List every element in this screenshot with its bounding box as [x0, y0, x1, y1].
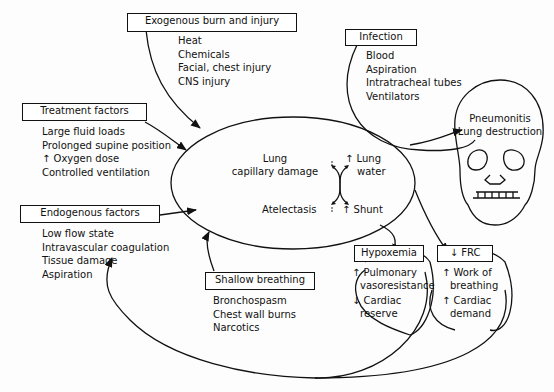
atelectasis: Atelectasis: [262, 203, 316, 216]
endogenous-title: Endogenous factors: [40, 207, 139, 218]
list-item: Bronchospasm: [213, 294, 296, 308]
list-item: ↑ Pulmonary: [352, 267, 435, 280]
list-item: demand: [442, 308, 498, 321]
list-item: Heat: [178, 34, 271, 48]
infection-title: Infection: [359, 31, 403, 42]
list-item: Controlled ventilation: [42, 166, 171, 180]
list-item: Intratracheal tubes: [366, 76, 462, 90]
list-item: Large fluid loads: [42, 125, 171, 139]
skull-label: Pneumonitis Lung destruction: [455, 112, 545, 138]
list-item: Aspiration: [42, 268, 169, 282]
shallow-breathing-list: Bronchospasm Chest wall burns Narcotics: [213, 294, 296, 335]
skull-icon: [455, 80, 543, 225]
endogenous-list: Low flow state Intravascular coagulation…: [42, 227, 169, 281]
list-item: vasoresistance: [352, 280, 435, 293]
lung-water: ↑ Lung water: [345, 152, 386, 178]
shallow-breathing-header: Shallow breathing: [205, 272, 315, 290]
shallow-breathing-title: Shallow breathing: [215, 274, 305, 285]
infection-list: Blood Aspiration Intratracheal tubes Ven…: [366, 49, 462, 103]
list-item: Tissue damage: [42, 254, 169, 268]
list-item: reserve: [352, 308, 435, 321]
infection-header: Infection: [345, 29, 417, 46]
treatment-header: Treatment factors: [22, 103, 147, 121]
frc-list: ↑ Work of breathing ↑ Cardiac demand: [442, 267, 498, 320]
list-item: Aspiration: [366, 63, 462, 77]
list-item: breathing: [442, 280, 498, 293]
frc-header: ↓ FRC: [437, 245, 493, 262]
shunt: ↑ Shunt: [342, 203, 383, 216]
list-item: ↓ Cardiac: [352, 295, 435, 308]
exogenous-list: Heat Chemicals Facial, chest injury CNS …: [178, 34, 271, 88]
list-item: ↑ Cardiac: [442, 295, 498, 308]
exogenous-header: Exogenous burn and injury: [127, 13, 297, 32]
list-item: Chest wall burns: [213, 308, 296, 322]
list-item: Intravascular coagulation: [42, 241, 169, 255]
treatment-list: Large fluid loads Prolonged supine posit…: [42, 125, 171, 179]
hypoxemia-title: Hypoxemia: [361, 247, 417, 258]
list-item: ↑ Oxygen dose: [42, 152, 171, 166]
list-item: ↑ Work of: [442, 267, 498, 280]
treatment-title: Treatment factors: [40, 105, 129, 116]
lung-capillary-damage: Lung capillary damage: [225, 152, 325, 178]
hypoxemia-list: ↑ Pulmonary vasoresistance ↓ Cardiac res…: [352, 267, 435, 320]
endogenous-header: Endogenous factors: [20, 205, 160, 223]
list-item: Facial, chest injury: [178, 61, 271, 75]
exogenous-title: Exogenous burn and injury: [145, 15, 279, 26]
hypoxemia-header: Hypoxemia: [354, 245, 424, 262]
list-item: Ventilators: [366, 90, 462, 104]
list-item: Narcotics: [213, 321, 296, 335]
lung-ellipse: [171, 117, 415, 249]
list-item: Low flow state: [42, 227, 169, 241]
list-item: Blood: [366, 49, 462, 63]
diagram-canvas: Exogenous burn and injury Heat Chemicals…: [0, 0, 554, 392]
list-item: CNS injury: [178, 75, 271, 89]
list-item: Prolonged supine position: [42, 139, 171, 153]
list-item: Chemicals: [178, 48, 271, 62]
frc-title: ↓ FRC: [450, 247, 481, 258]
